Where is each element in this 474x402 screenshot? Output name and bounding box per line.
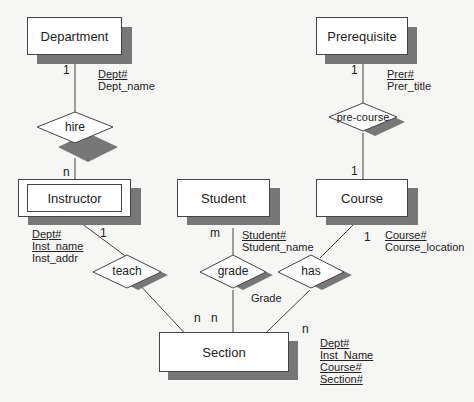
card-course-has: 1 bbox=[364, 230, 371, 244]
attr-student-name: Student_name bbox=[242, 241, 314, 254]
card-instructor-teach: 1 bbox=[100, 226, 107, 240]
rel-grade[interactable]: grade bbox=[203, 264, 263, 278]
card-precourse-course: 1 bbox=[351, 164, 358, 178]
card-student-grade: m bbox=[210, 226, 220, 240]
rel-hire[interactable]: hire bbox=[45, 120, 105, 134]
entity-section[interactable]: Section bbox=[159, 332, 289, 372]
attr-section-key: Section# bbox=[320, 373, 363, 386]
attr-prer-title: Prer_title bbox=[387, 80, 431, 93]
attr-course-location: Course_location bbox=[385, 241, 465, 254]
rel-pre-course[interactable]: pre-course bbox=[328, 111, 398, 123]
card-dept-hire: 1 bbox=[63, 63, 70, 77]
rel-teach[interactable]: teach bbox=[97, 264, 157, 278]
attr-inst-addr: Inst_addr bbox=[32, 252, 78, 265]
entity-department[interactable]: Department bbox=[27, 17, 122, 55]
weak-entity-border bbox=[27, 184, 122, 212]
card-hire-instructor: n bbox=[63, 165, 70, 179]
rel-has[interactable]: has bbox=[281, 264, 341, 278]
card-prer-precourse: 1 bbox=[351, 63, 358, 77]
card-grade-section: n bbox=[211, 311, 218, 325]
entity-prerequisite[interactable]: Prerequisite bbox=[316, 17, 408, 55]
card-has-section: n bbox=[302, 322, 309, 336]
card-teach-section: n bbox=[194, 311, 201, 325]
attr-grade: Grade bbox=[251, 292, 282, 305]
attr-dept-name: Dept_name bbox=[98, 80, 155, 93]
entity-course[interactable]: Course bbox=[316, 179, 408, 217]
entity-student[interactable]: Student bbox=[177, 179, 270, 217]
